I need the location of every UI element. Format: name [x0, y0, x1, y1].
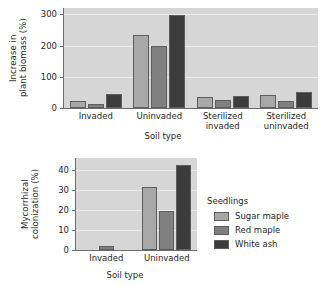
bar — [142, 187, 157, 250]
bar — [233, 96, 249, 108]
y-tick-label: 30 — [58, 185, 69, 195]
bar — [169, 15, 185, 108]
legend-swatch-icon — [214, 240, 229, 249]
plot-area-biomass — [64, 8, 318, 108]
legend-item-label: Sugar maple — [235, 211, 289, 221]
x-axis-label-biomass: Soil type — [0, 131, 326, 141]
y-tick-label: 10 — [58, 225, 69, 235]
bar — [88, 104, 104, 108]
y-tick-label: 0 — [52, 103, 57, 113]
figure-container: Increase in plant biomass (%) 0100200300… — [0, 0, 326, 286]
legend-entries: Sugar mapleRed mapleWhite ash — [207, 210, 325, 250]
legend-swatch-icon — [214, 226, 229, 235]
legend-title: Seedlings — [207, 196, 325, 206]
x-axis-line-biomass — [63, 108, 318, 109]
bar — [296, 92, 312, 108]
x-tick-label: Uninvaded — [137, 254, 198, 264]
bar — [99, 246, 114, 250]
legend-item-label: Red maple — [235, 225, 280, 235]
gridline — [64, 77, 318, 78]
bar — [106, 94, 122, 108]
x-tick-label: Invaded — [64, 112, 128, 122]
y-axis-label-biomass: Increase in plant biomass (%) — [8, 8, 30, 108]
y-tick-label: 20 — [58, 205, 69, 215]
legend-item: Sugar maple — [207, 210, 325, 222]
y-tick-label: 100 — [41, 72, 57, 82]
chart-mycorrhizal-colonization: Mycorrhizal colonization (%) 010203040 I… — [0, 148, 200, 286]
chart-plant-biomass: Increase in plant biomass (%) 0100200300… — [0, 0, 326, 148]
bar — [278, 101, 294, 108]
bar — [197, 97, 213, 108]
bar — [159, 211, 174, 250]
y-tick-label: 200 — [41, 41, 57, 51]
bar — [215, 100, 231, 108]
x-axis-line-mycorrhizal — [75, 250, 197, 251]
y-tick-label: 40 — [58, 165, 69, 175]
legend-item: Red maple — [207, 224, 325, 236]
bar — [133, 35, 149, 108]
bar — [70, 101, 86, 109]
x-tick-label: Sterilized invaded — [191, 112, 255, 131]
y-tick-label: 0 — [64, 245, 69, 255]
bar — [176, 165, 191, 250]
plot-area-mycorrhizal — [76, 158, 197, 250]
x-tick-label: Uninvaded — [128, 112, 192, 122]
y-tick-label: 300 — [41, 9, 57, 19]
x-axis-label-mycorrhizal: Soil type — [45, 270, 205, 280]
legend-item: White ash — [207, 238, 325, 250]
x-tick-label: Sterilized uninvaded — [255, 112, 319, 131]
x-tick-label: Invaded — [76, 254, 137, 264]
legend: Seedlings Sugar mapleRed mapleWhite ash — [207, 196, 325, 252]
legend-swatch-icon — [214, 212, 229, 221]
gridline — [64, 46, 318, 47]
gridline — [64, 14, 318, 15]
bar — [151, 46, 167, 108]
legend-item-label: White ash — [235, 239, 277, 249]
bar — [260, 95, 276, 108]
y-axis-label-mycorrhizal: Mycorrhizal colonization (%) — [20, 158, 42, 250]
